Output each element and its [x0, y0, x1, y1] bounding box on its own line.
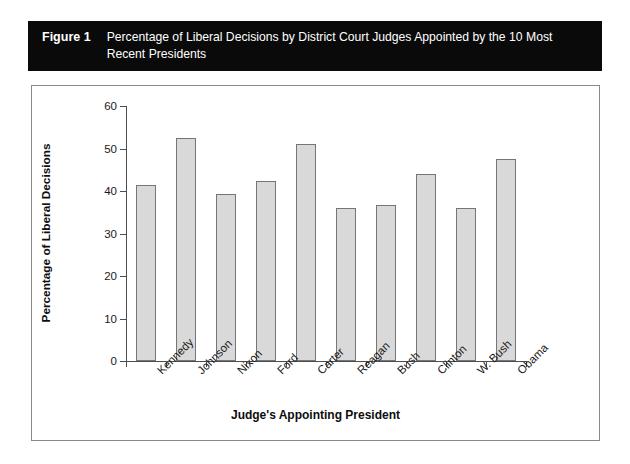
figure-number-label: Figure 1: [42, 29, 91, 46]
y-tick-mark: [120, 106, 126, 107]
bar: [176, 138, 196, 361]
x-axis-title: Judge's Appointing President: [32, 408, 599, 422]
y-tick-mark: [120, 191, 126, 192]
y-tick-mark: [120, 319, 126, 320]
bar: [256, 181, 276, 361]
y-tick-label: 0: [111, 355, 117, 367]
figure-caption-text: Percentage of Liberal Decisions by Distr…: [107, 29, 588, 62]
figure-caption-bar: Figure 1 Percentage of Liberal Decisions…: [28, 21, 602, 71]
x-tick-label: Bush: [395, 349, 422, 376]
bar: [216, 194, 236, 361]
bar: [416, 174, 436, 361]
y-axis-line: [126, 106, 127, 361]
y-axis-title: Percentage of Liberal Decisions: [39, 144, 53, 323]
bar: [376, 205, 396, 361]
bar: [296, 144, 316, 361]
y-tick-label: 20: [104, 270, 117, 282]
bar: [336, 208, 356, 361]
x-tick-label: Obama: [515, 341, 550, 376]
y-tick-mark: [120, 149, 126, 150]
y-tick-mark: [120, 234, 126, 235]
y-tick-mark: [120, 276, 126, 277]
y-tick-label: 30: [104, 228, 117, 240]
bar: [456, 208, 476, 361]
y-tick-label: 60: [104, 100, 117, 112]
y-tick-label: 50: [104, 143, 117, 155]
y-tick-label: 10: [104, 313, 117, 325]
bar: [496, 159, 516, 361]
plot-area: 0102030405060 KennedyJohnsonNixonFordCar…: [126, 106, 526, 361]
y-tick-label: 40: [104, 185, 117, 197]
bar: [136, 185, 156, 361]
x-tick-label: Ford: [275, 351, 300, 376]
chart-frame: Percentage of Liberal Decisions 01020304…: [31, 85, 600, 441]
x-tick-mark: [126, 361, 127, 367]
